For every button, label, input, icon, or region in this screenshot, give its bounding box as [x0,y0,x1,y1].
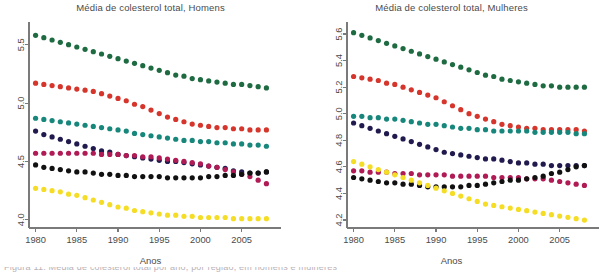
svg-text:1980: 1980 [25,235,46,245]
series-serie-amarelo [33,186,269,222]
svg-text:2005: 2005 [549,235,570,245]
svg-text:1990: 1990 [108,235,129,245]
svg-text:2000: 2000 [508,235,529,245]
svg-text:5.0: 5.0 [334,107,344,120]
svg-text:2005: 2005 [231,235,252,245]
svg-text:5.0: 5.0 [16,97,26,110]
svg-text:4.0: 4.0 [16,213,26,226]
svg-text:1995: 1995 [467,235,488,245]
svg-text:1985: 1985 [66,235,87,245]
svg-text:4.5: 4.5 [16,155,26,168]
series-serie-amarelo [351,159,587,223]
svg-text:1995: 1995 [149,235,170,245]
svg-text:4.2: 4.2 [334,214,344,227]
svg-text:4.8: 4.8 [334,134,344,147]
svg-text:1980: 1980 [343,235,364,245]
svg-text:5.2: 5.2 [334,81,344,94]
x-axis-label-mulheres: Anos [301,255,602,266]
cholesterol-figure: Média de colesterol total, Homens 4.04.5… [0,0,602,273]
svg-text:1985: 1985 [384,235,405,245]
plot-area-mulheres: 4.24.44.64.85.05.25.45.61980198519901995… [301,0,602,273]
svg-text:1990: 1990 [426,235,447,245]
svg-text:5.5: 5.5 [16,38,26,51]
svg-text:4.6: 4.6 [334,160,344,173]
plot-area-homens: 4.04.55.05.5198019851990199520002005 [0,0,301,273]
series-serie-vermelho [351,74,587,134]
panel-homens: Média de colesterol total, Homens 4.04.5… [0,0,301,273]
x-axis-label-homens: Anos [0,255,301,266]
svg-text:5.4: 5.4 [334,54,344,67]
svg-text:5.6: 5.6 [334,28,344,41]
svg-text:4.4: 4.4 [334,187,344,200]
series-serie-verde-escuro [33,33,269,91]
panel-mulheres: Média de colesterol total, Mulheres 4.24… [301,0,602,273]
svg-text:2000: 2000 [190,235,211,245]
